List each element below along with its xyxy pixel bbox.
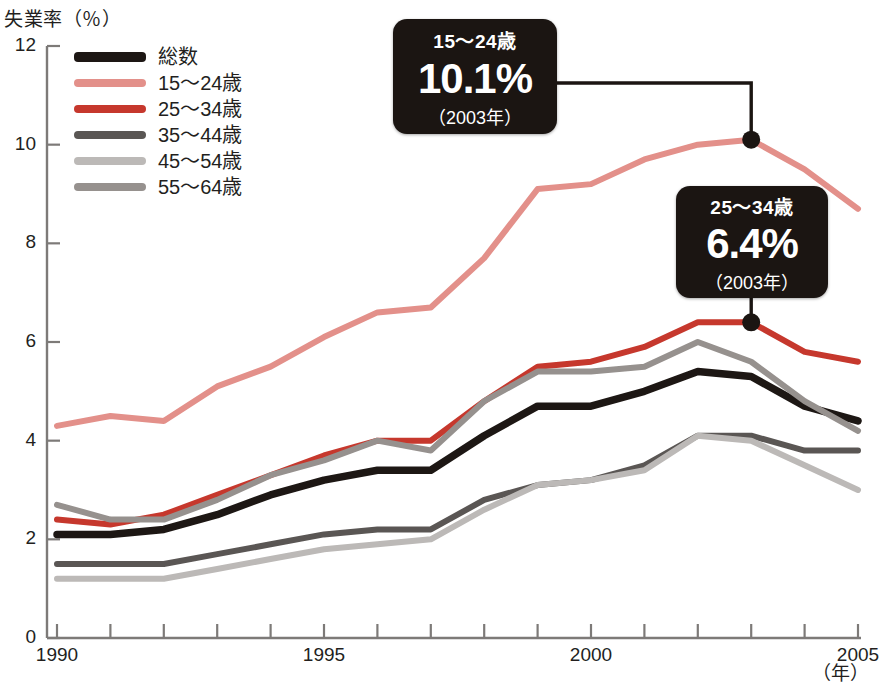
legend-item-4[interactable]: 45〜54歳 [74, 148, 243, 174]
callout-25-34-value: 6.4% [676, 223, 828, 265]
x-tick-label-2000: 2000 [551, 644, 631, 666]
legend-label: 55〜64歳 [158, 177, 243, 197]
y-tick-label-12: 12 [2, 34, 36, 56]
callout-25-34-year: （2003年） [676, 274, 828, 292]
chart-legend: 総数15〜24歳25〜34歳35〜44歳45〜54歳55〜64歳 [74, 44, 243, 200]
callout-15-24: 15〜24歳 10.1% （2003年） [393, 19, 557, 134]
legend-swatch-icon [74, 157, 146, 165]
callout-15-24-value: 10.1% [393, 58, 557, 100]
legend-swatch-icon [74, 183, 146, 191]
x-tick-label-1990: 1990 [17, 644, 97, 666]
callout-25-34-age: 25〜34歳 [676, 198, 828, 217]
legend-item-3[interactable]: 35〜44歳 [74, 122, 243, 148]
legend-label: 35〜44歳 [158, 125, 243, 145]
y-tick-label-6: 6 [2, 330, 36, 352]
legend-swatch-icon [74, 131, 146, 139]
y-tick-label-4: 4 [2, 429, 36, 451]
legend-swatch-icon [74, 105, 146, 113]
y-tick-label-8: 8 [2, 231, 36, 253]
callout-15-24-age: 15〜24歳 [393, 32, 557, 51]
x-tick-label-1995: 1995 [284, 644, 364, 666]
legend-item-1[interactable]: 15〜24歳 [74, 70, 243, 96]
legend-item-2[interactable]: 25〜34歳 [74, 96, 243, 122]
x-axis-unit-label: （年） [812, 658, 869, 685]
legend-item-5[interactable]: 55〜64歳 [74, 174, 243, 200]
x-axis-ticks [57, 624, 858, 638]
legend-swatch-icon [74, 52, 146, 62]
legend-label: 45〜54歳 [158, 151, 243, 171]
legend-label: 総数 [158, 47, 198, 67]
legend-item-0[interactable]: 総数 [74, 44, 243, 70]
legend-label: 15〜24歳 [158, 73, 243, 93]
y-tick-label-2: 2 [2, 527, 36, 549]
y-tick-label-10: 10 [2, 133, 36, 155]
callout-15-24-year: （2003年） [393, 109, 557, 127]
legend-swatch-icon [74, 79, 146, 87]
callout-25-34: 25〜34歳 6.4% （2003年） [676, 186, 828, 298]
legend-label: 25〜34歳 [158, 99, 243, 119]
y-axis-ticks [47, 46, 60, 638]
